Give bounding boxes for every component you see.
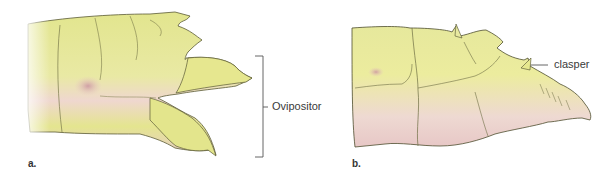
ovipositor-label: Ovipositor xyxy=(272,100,322,112)
clasper-label: clasper xyxy=(554,58,589,70)
insect-abdomen-illustration xyxy=(0,0,615,190)
panel-b-letter: b. xyxy=(352,158,361,169)
panel-b-drawing xyxy=(352,24,591,147)
panel-a-letter: a. xyxy=(28,158,36,169)
ovipositor-bracket xyxy=(255,56,268,157)
panel-a-drawing xyxy=(20,10,252,156)
